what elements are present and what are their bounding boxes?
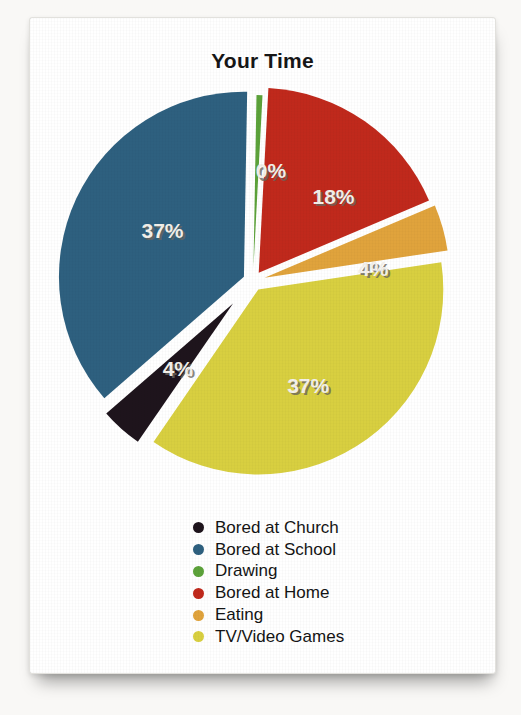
legend-swatch-icon xyxy=(193,588,204,599)
chart-card: 4%4%37%37%0%0%18%18%4%4%37%37% Your Time… xyxy=(29,17,496,674)
legend: Bored at ChurchBored at SchoolDrawingBor… xyxy=(193,517,344,648)
legend-label: TV/Video Games xyxy=(215,627,344,647)
chart-title: Your Time xyxy=(30,49,495,73)
legend-swatch-icon xyxy=(193,544,204,555)
legend-label: Bored at Church xyxy=(215,518,339,538)
legend-label: Bored at Home xyxy=(215,583,329,603)
pie-percent-label-bored-at-school: 37% xyxy=(141,219,183,242)
pie-percent-label-tv-video-games: 37% xyxy=(287,374,329,397)
pie-percent-label-bored-at-home: 18% xyxy=(313,185,355,208)
page-background: 4%4%37%37%0%0%18%18%4%4%37%37% Your Time… xyxy=(0,0,521,715)
legend-swatch-icon xyxy=(193,522,204,533)
legend-swatch-icon xyxy=(193,566,204,577)
legend-label: Drawing xyxy=(215,561,277,581)
legend-item-bored-at-school: Bored at School xyxy=(193,539,344,561)
legend-label: Eating xyxy=(215,605,263,625)
legend-item-tv-video-games: TV/Video Games xyxy=(193,626,344,648)
legend-item-eating: Eating xyxy=(193,604,344,626)
pie-percent-label-eating: 4% xyxy=(358,257,389,280)
legend-swatch-icon xyxy=(193,631,204,642)
pie-chart: 4%4%37%37%0%0%18%18%4%4%37%37% xyxy=(30,18,495,518)
legend-swatch-icon xyxy=(193,610,204,621)
pie-percent-label-bored-at-church: 4% xyxy=(163,357,194,380)
legend-item-bored-at-church: Bored at Church xyxy=(193,517,344,539)
pie-percent-label-drawing: 0% xyxy=(256,159,287,182)
legend-label: Bored at School xyxy=(215,540,336,560)
legend-item-bored-at-home: Bored at Home xyxy=(193,582,344,604)
legend-item-drawing: Drawing xyxy=(193,561,344,583)
